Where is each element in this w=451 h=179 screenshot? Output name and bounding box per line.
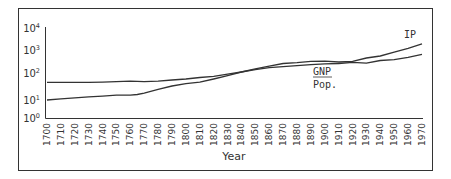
x-tick-label: 1920: [348, 123, 358, 146]
line-chart: 100101102103104 170017101720173017401750…: [0, 0, 451, 179]
x-tick-label: 1960: [403, 123, 413, 146]
x-tick-label: 1760: [125, 123, 135, 146]
x-tick-label: 1800: [181, 123, 191, 146]
x-tick-label: 1870: [278, 123, 288, 146]
x-tick-label: 1860: [264, 123, 274, 146]
x-tick-label: 1740: [98, 123, 108, 146]
y-tick-label: 101: [23, 94, 40, 106]
x-tick-label: 1790: [167, 123, 177, 146]
x-tick-label: 1780: [153, 123, 163, 146]
ip-label: IP: [404, 29, 416, 40]
gnp-label: GNP: [313, 66, 331, 77]
x-tick-label: 1720: [70, 123, 80, 146]
x-tick-label: 1850: [250, 123, 260, 146]
x-tick-label: 1880: [292, 123, 302, 146]
x-tick-label: 1810: [195, 123, 205, 146]
x-tick-label: 1930: [361, 123, 371, 146]
x-tick-label: 1830: [223, 123, 233, 146]
y-tick-labels: 100101102103104: [23, 22, 40, 124]
ip-line: [47, 44, 422, 100]
x-tick-label: 1750: [111, 123, 121, 146]
x-tick-label: 1910: [334, 123, 344, 146]
x-axis-title: Year: [221, 150, 246, 163]
y-tick-label: 100: [23, 112, 40, 124]
x-tick-label: 1890: [306, 123, 316, 146]
x-tick-label: 1900: [320, 123, 330, 146]
pop-label: Pop.: [313, 79, 337, 90]
x-tick-label: 1820: [209, 123, 219, 146]
x-tick-label: 1940: [375, 123, 385, 146]
y-tick-label: 102: [23, 67, 40, 79]
x-tick-label: 1770: [139, 123, 149, 146]
x-tick-label: 1840: [236, 123, 246, 146]
x-tick-label: 1730: [84, 123, 94, 146]
x-tick-label: 1710: [56, 123, 66, 146]
x-tick-labels: 1700171017201730174017501760177017801790…: [42, 123, 427, 146]
y-tick-label: 103: [23, 44, 40, 56]
x-tick-label: 1970: [417, 123, 427, 146]
x-tick-label: 1950: [389, 123, 399, 146]
x-tick-label: 1700: [42, 123, 52, 146]
y-tick-label: 104: [23, 22, 40, 34]
